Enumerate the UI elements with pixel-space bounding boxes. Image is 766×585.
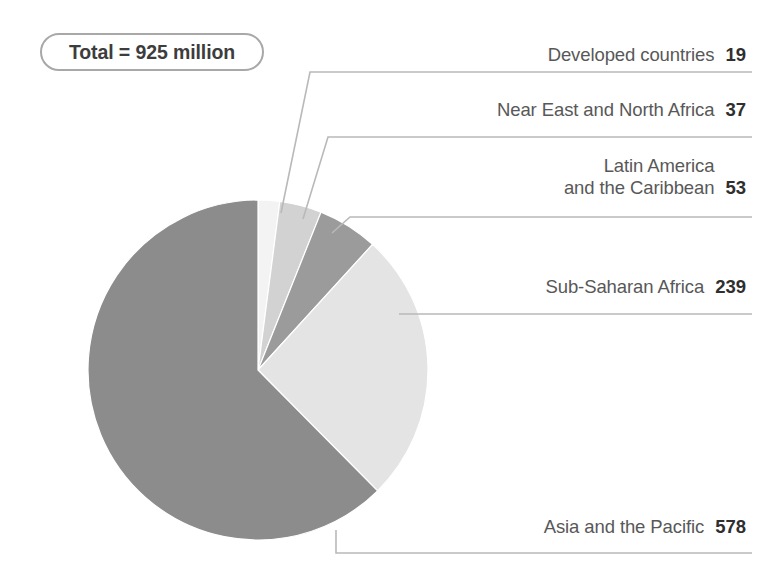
total-badge-label: Total = 925 million bbox=[69, 41, 235, 64]
slice-label-value: 53 bbox=[725, 177, 746, 199]
slice-label-latin-america-caribbean: Latin America and the Caribbean 53 bbox=[564, 155, 746, 199]
slice-label-asia-pacific: Asia and the Pacific 578 bbox=[544, 516, 746, 538]
slice-label-line-1: Latin America bbox=[604, 155, 715, 176]
slice-label-value: 578 bbox=[715, 516, 746, 538]
slice-label-near-east-north-africa: Near East and North Africa 37 bbox=[497, 99, 746, 121]
total-badge: Total = 925 million bbox=[40, 33, 264, 71]
pie-chart-figure: Total = 925 million Developed countries … bbox=[0, 0, 766, 585]
slice-label-text: Near East and North Africa bbox=[497, 99, 714, 121]
slice-label-developed-countries: Developed countries 19 bbox=[548, 44, 746, 66]
slice-label-value: 37 bbox=[725, 99, 746, 121]
slice-label-sub-saharan-africa: Sub-Saharan Africa 239 bbox=[545, 276, 746, 298]
slice-label-text: Latin America and the Caribbean bbox=[564, 155, 715, 199]
slice-label-text: Developed countries bbox=[548, 44, 715, 66]
leader-line-latin-america-caribbean bbox=[332, 217, 752, 233]
slice-label-text: Sub-Saharan Africa bbox=[545, 276, 704, 298]
slice-label-text: Asia and the Pacific bbox=[544, 516, 704, 538]
slice-label-value: 19 bbox=[725, 44, 746, 66]
slice-label-line-2: and the Caribbean bbox=[564, 177, 715, 198]
pie-slices-group bbox=[88, 200, 428, 540]
slice-label-value: 239 bbox=[715, 276, 746, 298]
